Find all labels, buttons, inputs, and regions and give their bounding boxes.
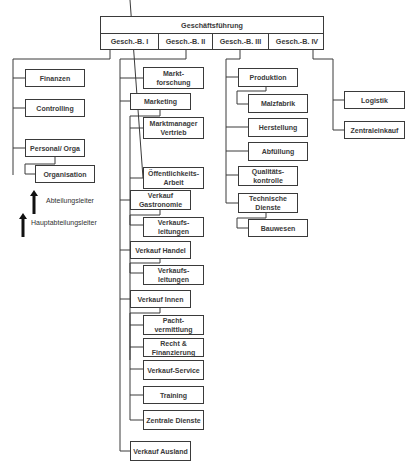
unit-recht-finanzierung: Recht & Finanzierung xyxy=(143,338,204,357)
unit-verkauf-service: Verkauf-Service xyxy=(143,360,204,380)
unit-produktion: Produktion xyxy=(238,68,298,87)
unit-qualitaetskontrolle: Qualitäts-kontrolle xyxy=(238,166,298,186)
division-1-header: Gesch.-B. I xyxy=(101,33,158,49)
division-4-header: Gesch.-B. IV xyxy=(268,33,325,49)
unit-controlling: Controlling xyxy=(25,99,85,117)
unit-verkaufsleitungen-gastronomie: Verkaufs-leitungen xyxy=(143,217,204,237)
unit-malzfabrik: Malzfabrik xyxy=(248,94,308,113)
unit-logistik: Logistik xyxy=(344,91,405,109)
unit-pachtvermittlung: Pacht-vermittlung xyxy=(143,315,204,335)
division-3-header: Gesch.-B. III xyxy=(212,33,268,49)
unit-verkaufsleitungen-handel: Verkaufs-leitungen xyxy=(143,265,204,285)
unit-verkauf-handel: Verkauf Handel xyxy=(130,241,191,259)
unit-marktforschung: Markt- forschung xyxy=(143,67,204,89)
unit-technische-dienste: Technische Dienste xyxy=(238,193,298,213)
unit-zentrale-dienste: Zentrale Dienste xyxy=(143,410,204,430)
unit-zentraleinkauf: Zentraleinkauf xyxy=(344,121,405,139)
division-2-header: Gesch.-B. II xyxy=(158,33,212,49)
unit-marktmanager-vertrieb: Marktmanager Vertrieb xyxy=(143,117,204,139)
unit-organisation: Organisation xyxy=(35,165,95,183)
executive-board: Geschäftsführung Gesch.-B. I Gesch.-B. I… xyxy=(100,16,324,50)
unit-marketing: Marketing xyxy=(130,93,191,110)
unit-oeffentlichkeitsarbeit: Öffentlichkeits-Arbeit xyxy=(143,167,204,189)
org-chart: Geschäftsführung Gesch.-B. I Gesch.-B. I… xyxy=(0,0,417,464)
unit-marktforschung-label: Markt- forschung xyxy=(156,69,190,87)
unit-training: Training xyxy=(143,386,204,404)
unit-verkauf-innen: Verkauf Innen xyxy=(130,290,191,308)
unit-abfuellung: Abfüllung xyxy=(248,142,308,161)
unit-herstellung: Herstellung xyxy=(248,118,308,137)
unit-personal-orga: Personal/ Orga xyxy=(25,139,85,157)
unit-finanzen: Finanzen xyxy=(25,69,85,87)
legend-abteilungsleiter: Abteilungsleiter xyxy=(46,197,94,204)
unit-verkauf-gastronomie: Verkauf Gastronomie xyxy=(130,190,191,210)
unit-bauwesen: Bauwesen xyxy=(248,219,308,237)
arrow-up-icon-abteilungsleiter xyxy=(30,190,38,214)
executive-board-title: Geschäftsführung xyxy=(101,17,323,34)
legend-hauptabteilungsleiter: Hauptabteilungsleiter xyxy=(31,219,97,226)
arrow-up-icon-hauptabteilungsleiter xyxy=(19,213,27,237)
unit-verkauf-ausland: Verkauf Ausland xyxy=(130,441,191,461)
